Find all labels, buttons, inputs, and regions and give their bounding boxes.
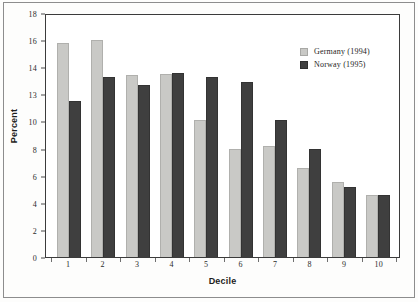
bar-norway-decile-2 <box>103 77 115 257</box>
bar-norway-decile-10 <box>378 195 390 257</box>
bar-norway-decile-3 <box>138 85 150 257</box>
x-tick-label: 2 <box>86 260 121 274</box>
bar-germany-decile-6 <box>229 149 241 257</box>
y-tick-label: 16 <box>28 37 37 46</box>
bar-group <box>86 15 120 257</box>
y-tick-label: 13 <box>28 91 37 100</box>
y-tick-label: 2 <box>33 226 37 235</box>
bar-group <box>258 15 292 257</box>
bar-norway-decile-4 <box>172 73 184 257</box>
bar-group <box>52 15 86 257</box>
legend-item-norway: Norway (1995) <box>300 60 370 69</box>
bar-germany-decile-3 <box>126 75 138 257</box>
y-tick-label: 18 <box>28 10 37 19</box>
bar-norway-decile-6 <box>241 82 253 257</box>
legend-label-germany: Germany (1994) <box>314 47 370 56</box>
bar-group <box>189 15 223 257</box>
x-tick-mark <box>396 258 397 262</box>
bar-germany-decile-2 <box>91 40 103 257</box>
x-tick-mark <box>362 258 363 262</box>
legend-label-norway: Norway (1995) <box>314 60 366 69</box>
x-axis-title: Decile <box>45 276 400 286</box>
x-tick-mark <box>327 258 328 262</box>
x-tick-mark <box>155 258 156 262</box>
bar-germany-decile-9 <box>332 182 344 257</box>
y-tick-label: 0 <box>33 254 37 263</box>
y-tick-label: 6 <box>33 172 37 181</box>
chart-figure: Percent 181614131086420 12345678910 Deci… <box>0 0 418 302</box>
x-tick-mark <box>189 258 190 262</box>
legend-item-germany: Germany (1994) <box>300 47 370 56</box>
bar-group <box>155 15 189 257</box>
x-tick-label: 9 <box>327 260 362 274</box>
x-axis-tick-labels: 12345678910 <box>45 260 400 274</box>
x-tick-label: 6 <box>224 260 259 274</box>
x-tick-label: 8 <box>293 260 328 274</box>
x-tick-label: 1 <box>51 260 86 274</box>
x-tick-label: 10 <box>362 260 397 274</box>
x-tick-mark <box>51 258 52 262</box>
bar-germany-decile-5 <box>194 120 206 257</box>
legend-swatch-germany <box>300 48 308 56</box>
x-tick-label: 3 <box>120 260 155 274</box>
bar-norway-decile-1 <box>69 101 81 257</box>
bar-norway-decile-7 <box>275 120 287 257</box>
bar-norway-decile-8 <box>309 149 321 257</box>
bar-norway-decile-5 <box>206 77 218 257</box>
y-tick-label: 14 <box>28 64 37 73</box>
x-tick-mark <box>120 258 121 262</box>
bar-germany-decile-8 <box>297 168 309 257</box>
chart-legend: Germany (1994) Norway (1995) <box>300 47 370 73</box>
bar-germany-decile-10 <box>366 195 378 257</box>
x-tick-label: 4 <box>155 260 190 274</box>
bar-germany-decile-4 <box>160 74 172 257</box>
x-tick-mark <box>224 258 225 262</box>
y-tick-label: 4 <box>33 199 37 208</box>
bar-group <box>223 15 257 257</box>
x-tick-mark <box>258 258 259 262</box>
x-tick-mark <box>86 258 87 262</box>
bar-germany-decile-1 <box>57 43 69 257</box>
y-tick-label: 8 <box>33 145 37 154</box>
bar-germany-decile-7 <box>263 146 275 257</box>
x-tick-label: 7 <box>258 260 293 274</box>
y-tick-label: 10 <box>28 118 37 127</box>
x-tick-label: 5 <box>189 260 224 274</box>
bar-norway-decile-9 <box>344 187 356 257</box>
y-axis-tick-labels: 181614131086420 <box>0 0 45 258</box>
x-tick-mark <box>293 258 294 262</box>
bar-group <box>121 15 155 257</box>
legend-swatch-norway <box>300 61 308 69</box>
